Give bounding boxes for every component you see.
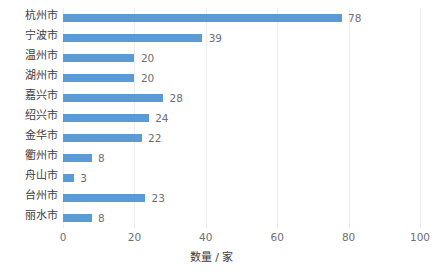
bar-row: 28: [63, 88, 420, 108]
bar[interactable]: [63, 74, 134, 82]
bar[interactable]: [63, 174, 74, 182]
category-axis: 杭州市 宁波市 温州市 湖州市 嘉兴市 绍兴市 金华市 衢州市 舟山市 台州市 …: [0, 8, 58, 228]
x-tick-label: 40: [199, 230, 212, 244]
x-tick-label: 80: [342, 230, 355, 244]
x-tick-label: 0: [60, 230, 67, 244]
bar[interactable]: [63, 114, 149, 122]
x-tick-label: 100: [410, 230, 430, 244]
bar[interactable]: [63, 154, 92, 162]
bar-row: 8: [63, 208, 420, 228]
bar-row: 23: [63, 188, 420, 208]
bar-row: 20: [63, 48, 420, 68]
bar-value-label: 78: [348, 11, 361, 25]
bar[interactable]: [63, 94, 163, 102]
category-label: 绍兴市: [2, 109, 58, 123]
category-label: 湖州市: [2, 69, 58, 83]
x-axis-title: 数量 / 家: [0, 250, 441, 265]
category-label: 温州市: [2, 49, 58, 63]
category-label: 台州市: [2, 189, 58, 203]
bar[interactable]: [63, 34, 202, 42]
bar[interactable]: [63, 54, 134, 62]
bar-value-label: 20: [141, 71, 154, 85]
bar[interactable]: [63, 134, 142, 142]
bar-value-label: 20: [141, 51, 154, 65]
category-label: 嘉兴市: [2, 89, 58, 103]
bar-value-label: 24: [155, 111, 168, 125]
gridline-100: [420, 8, 421, 228]
bar-value-label: 23: [152, 191, 165, 205]
category-label: 杭州市: [2, 9, 58, 23]
category-label: 丽水市: [2, 209, 58, 223]
plot-area: 78 39 20 20 28 24 22 8: [63, 8, 420, 228]
category-label: 宁波市: [2, 29, 58, 43]
bar-value-label: 3: [80, 171, 87, 185]
bar-row: 3: [63, 168, 420, 188]
x-axis-ticks: 0 20 40 60 80 100: [63, 230, 420, 246]
bar-value-label: 28: [170, 91, 183, 105]
bar-chart: 杭州市 宁波市 温州市 湖州市 嘉兴市 绍兴市 金华市 衢州市 舟山市 台州市 …: [0, 0, 441, 277]
category-label: 衢州市: [2, 149, 58, 163]
bar-row: 8: [63, 148, 420, 168]
bar-row: 24: [63, 108, 420, 128]
x-tick-label: 60: [271, 230, 284, 244]
bar-row: 20: [63, 68, 420, 88]
x-tick-label: 20: [128, 230, 141, 244]
bar-row: 39: [63, 28, 420, 48]
bar-value-label: 8: [98, 211, 105, 225]
bar-value-label: 8: [98, 151, 105, 165]
category-label: 舟山市: [2, 169, 58, 183]
bar[interactable]: [63, 14, 342, 22]
bar-row: 22: [63, 128, 420, 148]
bar-value-label: 39: [209, 31, 222, 45]
x-axis-title-text: 数量 / 家: [190, 250, 234, 265]
category-label: 金华市: [2, 129, 58, 143]
bar[interactable]: [63, 214, 92, 222]
bar-row: 78: [63, 8, 420, 28]
bar-value-label: 22: [148, 131, 161, 145]
bar[interactable]: [63, 194, 145, 202]
